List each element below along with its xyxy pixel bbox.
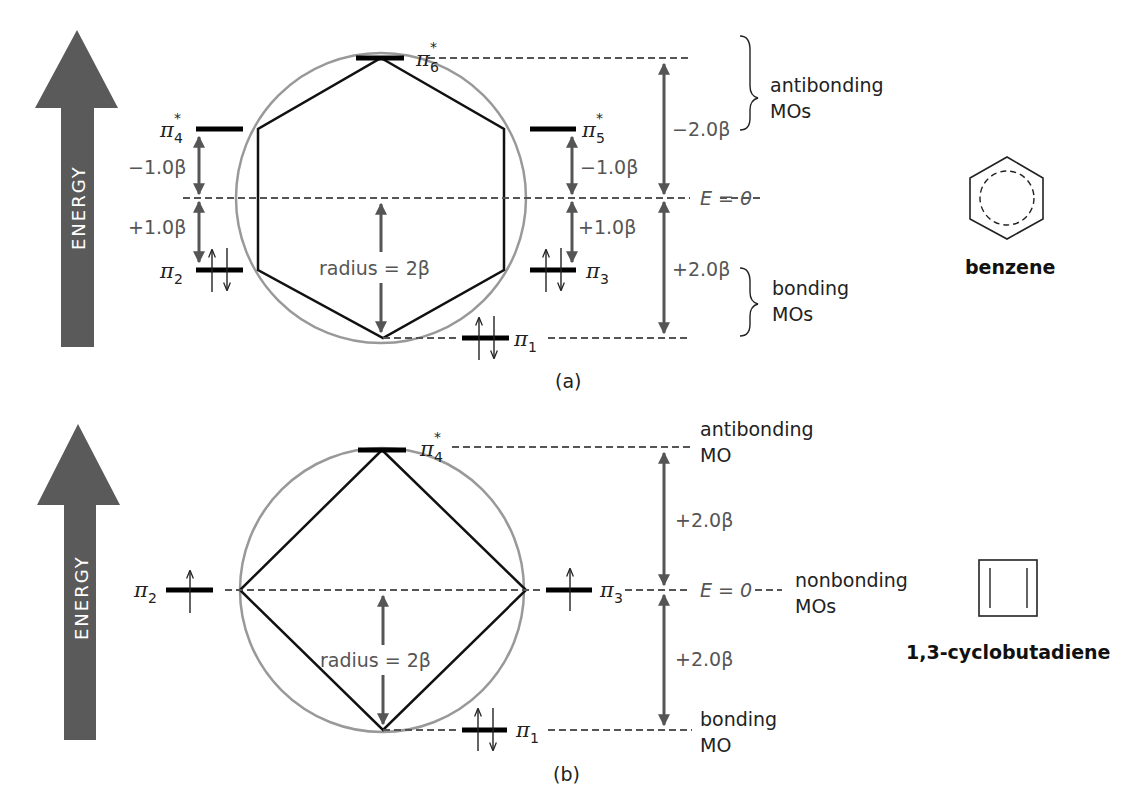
panel-b-caption: (b) (553, 763, 580, 785)
label-pi5: π 5 * (581, 110, 605, 146)
bonding-label-line2: MOs (772, 303, 813, 325)
energy-axis-label: ENERGY (68, 165, 89, 250)
gap-label-outer-upper: −2.0β (672, 118, 730, 140)
label-pi4: π 4 * (159, 110, 183, 146)
radius-label: radius = 2β (319, 257, 430, 279)
bonding-label-line1: bonding (772, 277, 849, 299)
svg-text:1: 1 (528, 339, 537, 355)
gap-label-outer-upper: +2.0β (675, 509, 733, 531)
gap-label-outer-lower: +2.0β (675, 648, 733, 670)
svg-text:π: π (419, 437, 435, 461)
antibonding-brace (740, 36, 758, 130)
gap-label-outer-lower: +2.0β (672, 258, 730, 280)
bonding-brace (740, 268, 758, 336)
label-pi1: π 1 (515, 718, 539, 746)
gap-label-left-lower: +1.0β (128, 216, 186, 238)
svg-text:π: π (159, 259, 175, 283)
benzene-label: benzene (965, 256, 1055, 278)
radius-label: radius = 2β (320, 649, 431, 671)
bonding-label-line1: bonding (700, 708, 777, 730)
gap-label-left-upper: −1.0β (128, 156, 186, 178)
svg-text:*: * (174, 110, 181, 126)
panel-b: ENERGY π 4 * π 2 (37, 418, 1110, 785)
svg-text:2: 2 (148, 590, 157, 606)
svg-text:*: * (430, 39, 437, 55)
antibonding-label-line2: MO (700, 444, 731, 466)
label-pi4: π 4 * (419, 429, 443, 465)
energy-arrow-icon: ENERGY (35, 30, 118, 347)
svg-text:π: π (159, 118, 175, 142)
panel-a-caption: (a) (555, 370, 581, 392)
antibonding-label-line1: antibonding (700, 418, 814, 440)
gap-label-right-upper: −1.0β (580, 156, 638, 178)
svg-text:π: π (415, 47, 431, 71)
label-pi2: π 2 (133, 578, 157, 606)
panel-a: ENERGY π 6 (35, 30, 1055, 392)
label-pi3: π 3 (599, 578, 623, 606)
nonbonding-label-line1: nonbonding (795, 569, 908, 591)
svg-text:5: 5 (596, 130, 605, 146)
svg-text:π: π (585, 259, 601, 283)
svg-text:6: 6 (430, 59, 439, 75)
svg-text:3: 3 (600, 271, 609, 287)
cyclobutadiene-label: 1,3-cyclobutadiene (906, 641, 1110, 663)
energy-arrow-icon: ENERGY (37, 424, 120, 740)
svg-text:*: * (596, 110, 603, 126)
svg-text:1: 1 (530, 730, 539, 746)
svg-text:π: π (515, 718, 531, 742)
svg-text:4: 4 (434, 449, 443, 465)
bonding-label-line2: MO (700, 734, 731, 756)
label-pi2: π 2 (159, 259, 183, 287)
label-pi3: π 3 (585, 259, 609, 287)
zero-energy-label: E = 0 (700, 579, 752, 601)
svg-text:π: π (513, 327, 529, 351)
benzene-structure-icon (970, 157, 1043, 239)
zero-energy-label: E = 0 (700, 187, 752, 209)
antibonding-label-line2: MOs (770, 100, 811, 122)
svg-text:π: π (599, 578, 615, 602)
svg-text:*: * (434, 429, 441, 445)
svg-text:3: 3 (614, 590, 623, 606)
cyclobutadiene-structure-icon (979, 560, 1037, 616)
label-pi6: π 6 * (415, 39, 439, 75)
frost-circle-diagram: ENERGY π 6 (0, 0, 1138, 803)
svg-text:4: 4 (174, 130, 183, 146)
label-pi1: π 1 (513, 327, 537, 355)
nonbonding-label-line2: MOs (795, 595, 836, 617)
antibonding-label-line1: antibonding (770, 74, 884, 96)
svg-text:π: π (581, 118, 597, 142)
svg-text:2: 2 (174, 271, 183, 287)
svg-text:π: π (133, 578, 149, 602)
gap-label-right-lower: +1.0β (578, 216, 636, 238)
energy-axis-label: ENERGY (71, 555, 92, 640)
